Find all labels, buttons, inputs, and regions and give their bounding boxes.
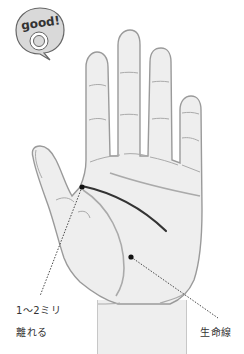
life-line-label: 生命線 (200, 324, 232, 339)
hand-outline (32, 30, 202, 304)
life-line-marker (128, 254, 133, 259)
gap-marker (79, 184, 84, 189)
gap-label-line2: 離れる (16, 324, 48, 339)
palm-illustration: good! 1～2ミリ 離れる 生命線 (0, 0, 244, 354)
wrist-fill (98, 300, 186, 354)
hand-drawing (0, 0, 244, 354)
gap-label-line1: 1～2ミリ (16, 302, 61, 317)
